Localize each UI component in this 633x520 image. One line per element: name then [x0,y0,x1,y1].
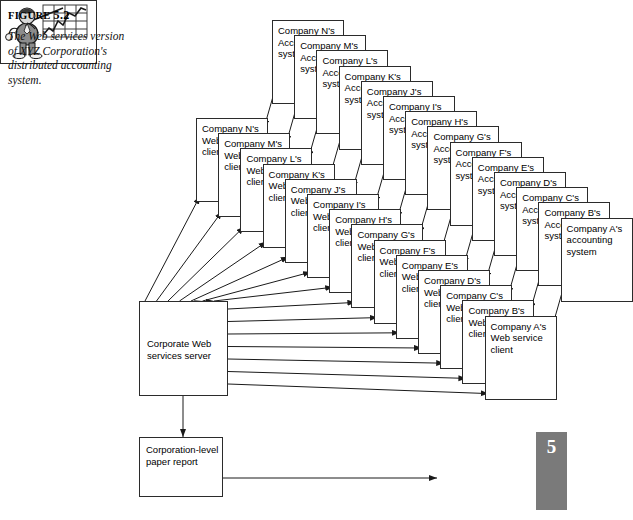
corporation-level-paper-report[interactable]: Corporation-level paper report [139,437,223,497]
stack-card-label: Company A's Web service client [491,321,553,356]
company-a-accounting-system[interactable]: Company A's accounting system [561,218,633,302]
corporate-web-services-server[interactable]: Corporate Web services server [139,301,228,396]
chapter-page-tab-number: 5 [536,436,567,458]
company-a-web-service-client[interactable]: Company A's Web service client [485,316,557,400]
corporation-level-paper-report-label: Corporation-level paper report [146,444,220,467]
chapter-page-tab: 5 [536,432,567,510]
corporate-web-services-server-label: Corporate Web services server [147,338,225,361]
stack-card-label: Company A's accounting system [567,223,629,258]
